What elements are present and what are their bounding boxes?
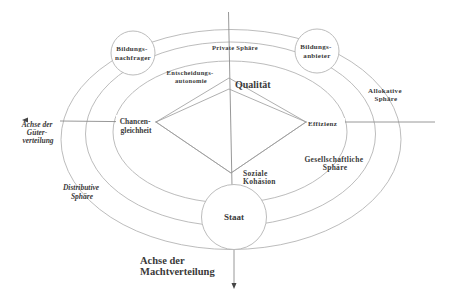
sphere-social-label: Gesellschaftliche Sphäre [304, 155, 365, 172]
criterion-cohesion-line2: Kohäsion [243, 177, 276, 186]
node-state-label: Staat [224, 212, 244, 222]
sphere-allocative-line1: Allokative [368, 87, 402, 95]
diagram-svg: Bildungs- nachfrager Bildungs- anbieter … [0, 0, 449, 295]
criterion-autonomy-line1: Entscheidungs- [167, 69, 214, 76]
criterion-autonomy-line2: autonomie [175, 77, 207, 84]
node-provider-circle [295, 29, 339, 73]
education-governance-diagram: Bildungs- nachfrager Bildungs- anbieter … [0, 0, 449, 295]
node-provider-label: Bildungs- anbieter [300, 43, 334, 60]
node-demander-line1: Bildungs- [116, 45, 148, 53]
power-axis-arrow-icon [232, 283, 237, 289]
sphere-social-line2: Sphäre [323, 163, 348, 172]
power-axis-upper-line [229, 12, 233, 186]
criterion-autonomy-label: Entscheidungs- autonomie [167, 69, 216, 84]
goods-axis-label: Achse der Güter- verteilung [21, 120, 55, 145]
sphere-distributive-label: Distributive Sphäre [62, 183, 101, 201]
node-demander-line2: nachfrager [115, 54, 151, 62]
criterion-cohesion-label: Soziale Kohäsion [243, 169, 276, 186]
sphere-private-label: Private Sphäre [212, 44, 258, 51]
node-demander-circle [111, 31, 155, 75]
criterion-equity-line2: gleichheit [121, 126, 152, 135]
node-provider-line1: Bildungs- [300, 43, 332, 51]
node-provider-line2: anbieter [303, 52, 330, 60]
power-axis-label: Achse der Machtverteilung [140, 255, 215, 277]
power-axis-line1: Achse der [140, 255, 185, 266]
goods-axis-line3: verteilung [22, 136, 53, 145]
sphere-allocative-line2: Sphäre [374, 95, 397, 103]
power-axis-line2: Machtverteilung [140, 266, 215, 277]
criterion-quality-label: Qualität [235, 79, 271, 90]
criterion-equity-label: Chancen- gleichheit [120, 117, 153, 135]
sphere-distributive-line2: Sphäre [71, 192, 94, 201]
node-demander-label: Bildungs- nachfrager [115, 45, 151, 62]
sphere-allocative-label: Allokative Sphäre [368, 87, 404, 103]
criterion-efficiency-label: Effizienz [308, 120, 337, 128]
